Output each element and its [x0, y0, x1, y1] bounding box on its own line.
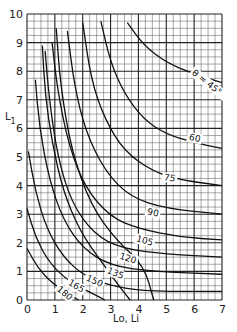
y-tick-label: 3 [16, 208, 23, 221]
theta-curve [67, 31, 222, 214]
y-tick-label: 10 [9, 8, 23, 21]
x-tick-label: 6 [191, 303, 198, 316]
y-tick-label: 4 [16, 180, 23, 193]
curve-label: 90 [146, 206, 160, 218]
y-axis-ticks: 012345678910 [9, 8, 23, 307]
curve-label: 120 [118, 251, 138, 266]
x-tick-label: 1 [52, 303, 59, 316]
theta-curve [42, 45, 130, 300]
theta-curve [127, 23, 222, 83]
y-tick-label: 9 [16, 37, 23, 50]
y-tick-label: 2 [16, 237, 23, 250]
x-tick-label: 0 [24, 303, 31, 316]
curve-label: 60 [188, 132, 202, 144]
x-tick-label: 2 [80, 303, 87, 316]
curve-label: 75 [163, 172, 176, 184]
y-tick-label: 7 [16, 94, 23, 107]
y-tick-label: 6 [16, 122, 23, 135]
y-axis-label: L1 [5, 111, 16, 126]
y-tick-label: 5 [16, 151, 23, 164]
chart-figure: θ = 45°607590105120135150165180 01234567… [0, 0, 237, 332]
y-tick-label: 8 [16, 65, 23, 78]
y-tick-label: 0 [16, 294, 23, 307]
x-tick-label: 7 [219, 303, 226, 316]
x-axis-label: Lo,Li [113, 313, 139, 324]
y-tick-label: 1 [16, 265, 23, 278]
x-tick-label: 5 [163, 303, 170, 316]
